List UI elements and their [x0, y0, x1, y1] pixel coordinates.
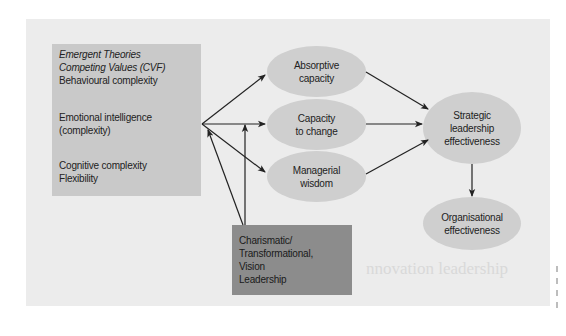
arrow-to-managerial: [202, 124, 265, 172]
arrow-managerial-to-strategic: [366, 140, 428, 174]
arrow-bottom-to-left-box: [208, 130, 243, 225]
page-edge-marks: [556, 266, 559, 314]
arrow-layer: [0, 0, 566, 336]
arrow-to-absorptive: [202, 75, 265, 124]
arrow-absorptive-to-strategic: [366, 72, 428, 109]
